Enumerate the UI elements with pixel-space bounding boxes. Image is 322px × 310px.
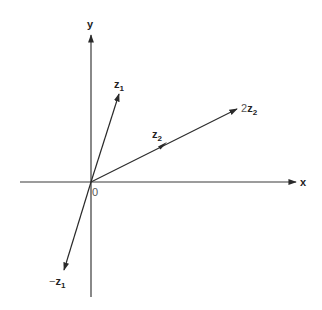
z1-label-sub: 1 (120, 84, 125, 93)
2z2-label: 2z2 (241, 102, 258, 117)
y-axis-label: y (87, 18, 94, 30)
z2-label: z2 (152, 128, 163, 143)
vector-z1 (91, 94, 119, 182)
origin-label: 0 (92, 186, 98, 198)
neg-z1-label-sub: 1 (61, 281, 66, 290)
2z2-label-sub: 2 (253, 108, 258, 117)
vector-2z2 (91, 109, 237, 182)
z1-label: z1 (114, 78, 125, 93)
vector-neg-z1 (64, 182, 91, 270)
vector-diagram: y x 0 z1 −z1 z2 2z2 (0, 0, 322, 310)
z2-label-sub: 2 (158, 134, 163, 143)
neg-z1-label: −z1 (49, 275, 66, 290)
x-axis-label: x (300, 176, 307, 188)
